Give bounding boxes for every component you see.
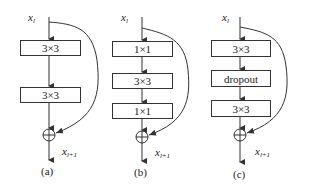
- block-b-2: 3×3: [112, 73, 173, 89]
- panel-b-connections: [136, 17, 189, 161]
- output-label-c: xl+1: [255, 146, 270, 159]
- input-label-a: xl: [28, 12, 35, 25]
- block-c-1: 3×3: [211, 40, 271, 57]
- caption-c: (c): [233, 169, 245, 180]
- block-b-3: 1×1: [112, 103, 173, 119]
- block-a-2: 3×3: [20, 87, 81, 103]
- panel-c-connections: [234, 17, 287, 162]
- block-a-1: 3×3: [20, 40, 81, 56]
- input-label-c: xl: [222, 12, 229, 25]
- skip-connection-a: [49, 22, 98, 133]
- input-label-b: xl: [121, 12, 128, 25]
- block-c-dropout: dropout: [211, 70, 271, 87]
- caption-b: (b): [134, 167, 147, 178]
- output-label-b: xl+1: [155, 147, 170, 160]
- caption-a: (a): [41, 166, 53, 177]
- block-b-1: 1×1: [112, 41, 173, 57]
- output-label-a: xl+1: [62, 146, 77, 159]
- block-c-2: 3×3: [211, 100, 271, 117]
